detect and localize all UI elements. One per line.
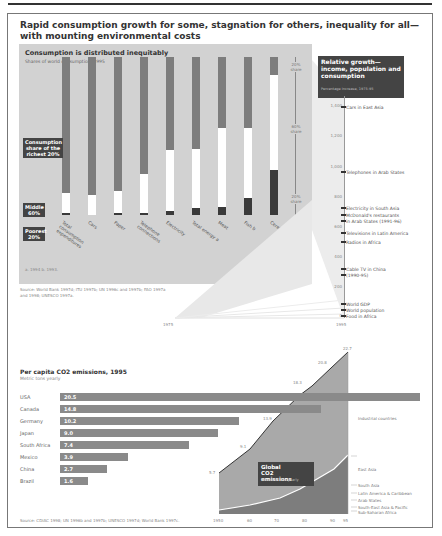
- ann-1970: 13.9: [263, 416, 272, 421]
- country-china: China: [20, 466, 34, 472]
- region-industrial: Industrial countries: [358, 416, 397, 421]
- value-brazil: 1.6: [64, 478, 73, 484]
- country-usa: USA: [20, 394, 30, 400]
- bar-usa: [60, 393, 420, 401]
- co2-title: Per capita CO2 emissions, 1995: [20, 368, 127, 375]
- country-japan: Japan: [20, 430, 34, 436]
- xtick-1950: 1950: [213, 518, 223, 523]
- region-east-asia: East Asia: [358, 467, 376, 472]
- country-south-africa: South Africa: [20, 442, 50, 448]
- global-co2-box: Global CO2 emissions Billions of tons ye…: [258, 462, 314, 486]
- value-japan: 9.0: [64, 430, 73, 436]
- xtick-95: 95: [343, 518, 348, 523]
- region-sub-saharan: Sub-Saharan Africa: [358, 510, 396, 515]
- country-canada: Canada: [20, 406, 39, 412]
- co2-subtitle: Metric tons yearly: [20, 376, 61, 381]
- ann-1980: 18.3: [293, 380, 302, 385]
- region-arab-states: Arab States: [358, 498, 381, 503]
- country-mexico: Mexico: [20, 454, 37, 460]
- bar-canada: [60, 405, 321, 413]
- ann-1950: 5.7: [209, 470, 215, 475]
- value-germany: 10.2: [64, 418, 76, 424]
- value-mexico: 3.9: [64, 454, 73, 460]
- xtick-90: 90: [330, 518, 335, 523]
- co2-source: Source: CDIAC 1998; UN 1996b and 1997b; …: [20, 518, 180, 524]
- bar-south-africa: [60, 441, 189, 449]
- region-south-asia: South Asia: [358, 483, 379, 488]
- value-canada: 14.8: [64, 406, 76, 412]
- value-south-africa: 7.4: [64, 442, 73, 448]
- value-usa: 20.5: [64, 394, 76, 400]
- xtick-70: 70: [274, 518, 279, 523]
- ann-1995: 22.7: [343, 346, 352, 351]
- global-co2-subtitle: Billions of tons yearly: [261, 478, 299, 482]
- xtick-60: 60: [247, 518, 252, 523]
- ann-1960: 9.1: [240, 444, 246, 449]
- value-china: 2.7: [64, 466, 73, 472]
- bar-japan: [60, 429, 218, 437]
- country-brazil: Brazil: [20, 478, 34, 484]
- bar-germany: [60, 417, 239, 425]
- region-latin-america: Latin America & Caribbean: [358, 491, 412, 496]
- country-germany: Germany: [20, 418, 43, 424]
- xtick-80: 80: [302, 518, 307, 523]
- ann-1990: 20.8: [318, 360, 327, 365]
